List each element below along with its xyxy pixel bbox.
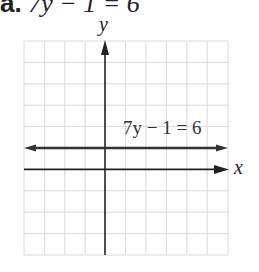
x-axis-label: x [234,156,243,179]
x-axis-arrow-icon [214,165,229,174]
y-axis-arrow-icon [101,40,109,55]
line-equation-label: 7y − 1 = 6 [123,117,201,139]
line-right-arrow-icon [216,145,228,152]
line-left-arrow-icon [24,145,36,152]
y-axis-label: y [99,13,108,36]
